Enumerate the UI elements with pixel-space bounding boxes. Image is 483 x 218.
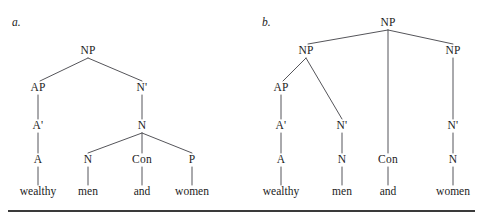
tree-node-label: NP [80,45,95,57]
tree-leaf-word: wealthy [20,186,56,198]
tree-branch [308,30,388,44]
tree-leaf-word: and [134,186,151,198]
tree-branch [40,58,88,81]
syntax-tree-figure: a.NPAPN'A'NANConPwealthymenandwomenb.NPN… [0,0,483,218]
tree-leaf-word: men [78,186,98,198]
panel-letter-b: b. [262,17,271,29]
tree-node-label: A [277,154,286,166]
tree-node-label: N [338,154,347,166]
tree-branch [142,133,192,153]
footer-divider-rule [8,210,475,212]
tree-node-label: N [138,120,147,132]
tree-node-label: P [189,154,196,166]
tree-node-label: N [449,154,458,166]
tree-node-label: A [34,154,43,166]
tree-node-label: NP [380,17,395,29]
tree-leaf-word: women [175,186,209,198]
tree-node-label: N [84,154,93,166]
tree-node-label: N' [137,82,148,94]
tree-branch [88,133,142,153]
tree-branch-lines [0,0,483,218]
tree-branch [388,30,453,44]
tree-node-label: N' [448,120,459,132]
panel-letter-a: a. [12,17,21,29]
tree-leaf-word: wealthy [263,186,299,198]
tree-node-label: A' [33,120,44,132]
tree-leaf-word: women [436,186,470,198]
tree-branch [88,58,142,81]
tree-node-label: Con [378,154,398,166]
tree-node-label: A' [276,120,287,132]
tree-leaf-word: men [332,186,352,198]
tree-node-label: NP [445,45,460,57]
tree-node-label: N' [337,120,348,132]
tree-branch [306,58,342,119]
tree-leaf-word: and [380,186,397,198]
tree-node-label: Con [132,154,152,166]
tree-node-label: AP [30,82,45,94]
tree-branch [283,58,306,81]
tree-node-label: NP [298,45,313,57]
tree-node-label: AP [273,82,288,94]
